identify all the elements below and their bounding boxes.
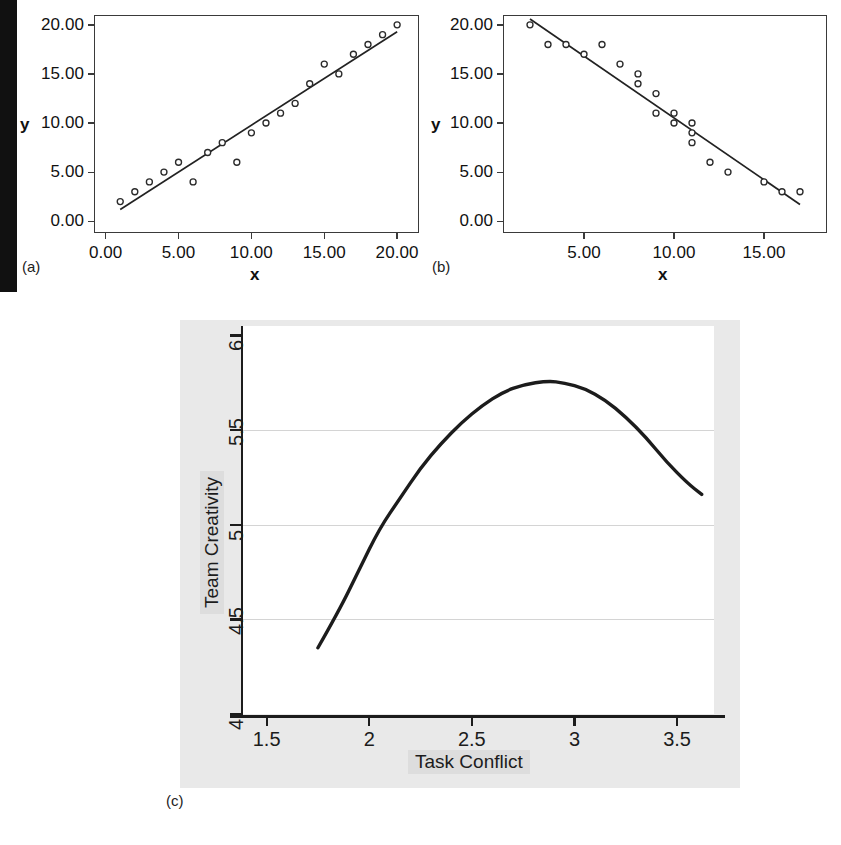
y-tick-mark [88,122,94,123]
data-point [653,91,659,97]
data-point [234,159,240,165]
regression-line [530,19,800,205]
y-tick-label: 0.00 [16,211,84,231]
data-point [219,140,225,146]
x-tick-label: 2.5 [452,728,492,751]
scatter-layer-a [94,15,419,233]
y-tick-mark [497,221,503,222]
data-point [205,149,211,155]
data-point [563,41,569,47]
data-point [599,41,605,47]
panel-a-scatter-positive: 0.005.0010.0015.0020.00 0.005.0010.0015.… [0,0,430,292]
x-tick-label: 0.00 [75,243,137,263]
x-tick-label: 15.00 [733,243,795,263]
x-tick-label: 15.00 [293,243,355,263]
data-point [190,179,196,185]
data-point [394,22,400,28]
x-tick-label: 3 [554,728,594,751]
panel-b-scatter-negative: 0.005.0010.0015.0020.00 5.0010.0015.00 y… [430,0,841,292]
x-tick-mark [396,233,397,239]
x-axis-title-c: Task Conflict [408,750,530,774]
y-axis-title-b: y [431,115,440,135]
x-tick-mark [105,233,106,239]
x-tick-mark [178,233,179,239]
data-point [292,100,298,106]
curve-layer-c [242,326,714,714]
data-point [527,22,533,28]
x-tick-label: 10.00 [220,243,282,263]
x-tick-mark [583,233,584,239]
y-tick-label: 20.00 [425,15,493,35]
data-point [761,179,767,185]
y-tick-mark [88,221,94,222]
data-point [545,41,551,47]
y-tick-label: 5.00 [425,162,493,182]
x-tick-mark [266,716,268,726]
data-point [365,41,371,47]
data-point [779,189,785,195]
data-point [671,120,677,126]
data-point [689,140,695,146]
y-tick-label: 20.00 [16,15,84,35]
x-tick-label: 2 [349,728,389,751]
data-point [336,71,342,77]
data-point [176,159,182,165]
x-tick-mark [676,716,678,726]
x-tick-mark [763,233,764,239]
y-axis-line-c [241,326,243,716]
y-tick-label: 5.5 [225,418,248,446]
curvilinear-trend-line [318,382,702,648]
x-tick-mark [471,716,473,726]
data-point [132,189,138,195]
x-tick-label: 20.00 [366,243,428,263]
y-tick-label: 6 [225,340,248,351]
data-point [671,110,677,116]
y-tick-label: 4.5 [225,608,248,636]
data-point [380,32,386,38]
data-point [581,51,587,57]
data-point [117,199,123,205]
data-point [725,169,731,175]
data-point [635,81,641,87]
data-point [350,51,356,57]
data-point [707,159,713,165]
x-axis-title-a: x [250,265,259,285]
x-tick-label: 5.00 [553,243,615,263]
panel-letter-b: (b) [432,258,450,275]
x-tick-label: 3.5 [657,728,697,751]
data-point [307,81,313,87]
y-tick-mark [88,172,94,173]
panel-c-curvilinear: 44.555.56 1.522.533.5 Team Creativity Ta… [0,292,841,845]
x-tick-mark [251,233,252,239]
x-tick-mark [673,233,674,239]
y-tick-mark [230,334,242,336]
y-axis-title-a: y [20,115,29,135]
y-tick-mark [497,122,503,123]
x-tick-mark [368,716,370,726]
y-tick-label: 15.00 [425,64,493,84]
data-point [653,110,659,116]
x-axis-title-b: x [658,265,667,285]
x-tick-label: 5.00 [148,243,210,263]
data-point [617,61,623,67]
panel-letter-c: (c) [166,792,184,809]
y-tick-label: 5 [225,530,248,541]
x-tick-mark [573,716,575,726]
y-tick-mark [88,24,94,25]
x-tick-label: 1.5 [247,728,287,751]
y-tick-label: 0.00 [425,211,493,231]
x-axis-line-c [230,715,725,718]
data-point [263,120,269,126]
data-point [278,110,284,116]
y-tick-mark [497,24,503,25]
data-point [161,169,167,175]
data-point [689,130,695,136]
regression-line [120,32,397,210]
y-tick-mark [230,524,242,526]
data-point [689,120,695,126]
data-point [146,179,152,185]
y-tick-mark [497,172,503,173]
y-tick-label: 5.00 [16,162,84,182]
data-point [248,130,254,136]
x-tick-mark [324,233,325,239]
